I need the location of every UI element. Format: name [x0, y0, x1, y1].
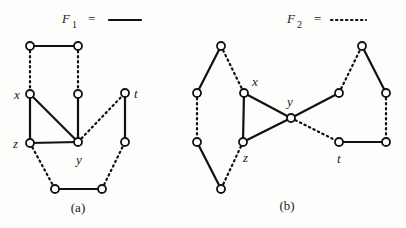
node-b-y — [287, 114, 295, 122]
node-label-a-z: z — [12, 136, 18, 151]
node-label-a-x: x — [13, 87, 20, 102]
edge-a10-a8-dotted — [102, 142, 125, 189]
caption-b: (b) — [279, 198, 294, 213]
edge-y-t-dotted — [291, 118, 339, 142]
node-a-a8 — [121, 138, 129, 146]
edge-x-y-solid — [30, 94, 78, 142]
node-b-b7 — [382, 89, 390, 97]
figure-canvas: F 1 = F 2 = xtzy xyzt (a) (b) — [0, 0, 406, 228]
edge-b5-b6-dotted — [339, 46, 362, 93]
node-a-a2 — [74, 42, 82, 50]
node-b-b12 — [217, 185, 225, 193]
panel-b: xyzt — [193, 42, 390, 193]
node-a-z — [26, 139, 34, 147]
graph-figure: F 1 = F 2 = xtzy xyzt (a) (b) — [0, 0, 406, 228]
edge-z-b12-dotted — [221, 142, 243, 189]
edge-b1-x-dotted — [221, 46, 244, 93]
legend-f1: F 1 = — [61, 11, 141, 30]
legend-f2-subscript: 2 — [297, 19, 302, 30]
edge-z-y-solid — [243, 118, 291, 142]
edge-z-y-solid — [30, 142, 78, 143]
legend-f2: F 2 = — [286, 11, 366, 30]
node-b-b5 — [335, 89, 343, 97]
edge-x-y-solid — [244, 93, 291, 118]
node-b-z — [239, 138, 247, 146]
edge-x-z-solid — [243, 93, 244, 142]
edge-b1-b2-solid — [197, 46, 221, 93]
node-a-a1 — [26, 42, 34, 50]
node-b-b6 — [358, 42, 366, 50]
node-label-a-t: t — [134, 86, 138, 101]
node-a-x — [26, 90, 34, 98]
edge-y-b5-solid — [291, 93, 339, 118]
node-label-b-x: x — [251, 74, 258, 89]
node-a-a10 — [98, 185, 106, 193]
node-b-t — [335, 138, 343, 146]
node-a-y — [74, 138, 82, 146]
node-label-b-z: z — [242, 150, 248, 165]
legend-f2-equals: = — [314, 11, 321, 26]
node-label-b-y: y — [285, 94, 293, 109]
panel-a: xtzy — [12, 42, 138, 193]
legend-f1-subscript: 1 — [72, 19, 77, 30]
edge-y-t-dotted — [78, 93, 125, 142]
node-label-a-y: y — [74, 152, 82, 167]
node-b-b8 — [193, 138, 201, 146]
node-b-x — [240, 89, 248, 97]
node-label-b-t: t — [337, 151, 341, 166]
node-a-a9 — [51, 185, 59, 193]
node-b-b11 — [382, 138, 390, 146]
caption-a: (a) — [71, 200, 85, 215]
edge-b6-b7-solid — [362, 46, 386, 93]
node-b-b1 — [217, 42, 225, 50]
legend-f1-equals: = — [88, 11, 95, 26]
legend-f1-symbol: F — [61, 11, 71, 26]
edge-b8-b12-solid — [197, 142, 221, 189]
edge-z-a9-dotted — [30, 143, 55, 189]
node-a-t — [121, 89, 129, 97]
legend-f2-symbol: F — [286, 11, 296, 26]
node-a-a4 — [74, 90, 82, 98]
node-b-b2 — [193, 89, 201, 97]
